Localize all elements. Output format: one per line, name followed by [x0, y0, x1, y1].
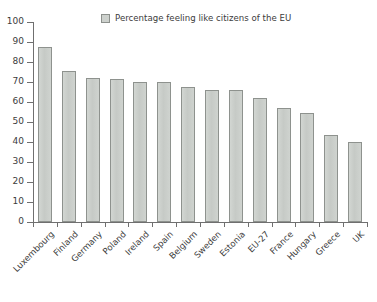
y-tick-label: 20	[0, 177, 24, 186]
x-tick-mark	[367, 222, 368, 227]
x-tick-mark	[343, 222, 344, 227]
y-tick-label: 10	[0, 197, 24, 206]
bar	[205, 90, 219, 222]
y-tick-label: 50	[0, 117, 24, 126]
bar	[277, 108, 291, 222]
bar	[229, 90, 243, 222]
x-tick-mark	[33, 222, 34, 227]
x-tick-mark	[200, 222, 201, 227]
bar	[38, 47, 52, 222]
x-tick-mark	[319, 222, 320, 227]
bar-chart: Percentage feeling like citizens of the …	[0, 0, 377, 302]
x-tick-mark	[176, 222, 177, 227]
y-tick-label: 0	[0, 217, 24, 226]
x-tick-mark	[128, 222, 129, 227]
bar	[110, 79, 124, 222]
x-tick-mark	[295, 222, 296, 227]
y-tick-label: 80	[0, 57, 24, 66]
bar	[348, 142, 362, 222]
x-tick-mark	[57, 222, 58, 227]
bar	[133, 82, 147, 222]
x-tick-mark	[224, 222, 225, 227]
bar	[86, 78, 100, 222]
x-tick-mark	[272, 222, 273, 227]
y-tick-label: 100	[0, 17, 24, 26]
y-tick-label: 90	[0, 37, 24, 46]
x-tick-mark	[105, 222, 106, 227]
bar	[62, 71, 76, 222]
x-tick-mark	[152, 222, 153, 227]
plot-area	[33, 22, 367, 222]
y-tick-label: 40	[0, 137, 24, 146]
x-tick-mark	[81, 222, 82, 227]
x-tick-mark	[248, 222, 249, 227]
y-tick-label: 30	[0, 157, 24, 166]
bar	[253, 98, 267, 222]
bar	[324, 135, 338, 222]
bar	[157, 82, 171, 222]
y-tick-label: 60	[0, 97, 24, 106]
y-tick-label: 70	[0, 77, 24, 86]
bar	[300, 113, 314, 222]
bar	[181, 87, 195, 222]
